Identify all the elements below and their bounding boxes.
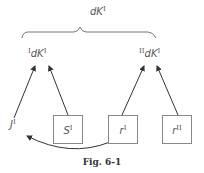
label-s-sup: I — [70, 124, 73, 132]
box-s: SI — [53, 115, 83, 144]
brace — [22, 27, 156, 38]
diagram-lines — [0, 0, 204, 173]
arrow-j-to-left — [14, 66, 35, 118]
box-r2: rII — [162, 115, 192, 144]
label-top-dk-base: dK — [90, 6, 103, 17]
label-r1-sup: I — [124, 124, 127, 132]
label-j-sup: I — [13, 118, 16, 126]
label-right-node: IIdKI — [139, 48, 160, 59]
label-left-node: IdKI — [28, 48, 46, 59]
label-top-dk: dKI — [90, 6, 106, 17]
label-s: SI — [63, 125, 72, 136]
box-r1: rI — [108, 115, 138, 144]
figure-caption: Fig. 6-1 — [0, 157, 204, 167]
label-right-node-base: dK — [145, 48, 158, 59]
label-left-node-base: dK — [31, 48, 44, 59]
label-r2: rII — [172, 125, 182, 136]
label-j: JI — [10, 119, 16, 130]
label-r2-sup: II — [176, 124, 182, 132]
label-right-node-sup: I — [157, 47, 160, 55]
label-top-dk-sup: I — [103, 5, 106, 13]
label-left-node-sup: I — [44, 47, 47, 55]
label-r1: rI — [120, 125, 127, 136]
arrow-s-to-left — [49, 66, 68, 115]
arrow-r1-to-right — [122, 66, 144, 115]
arrow-r2-to-right — [157, 66, 178, 115]
